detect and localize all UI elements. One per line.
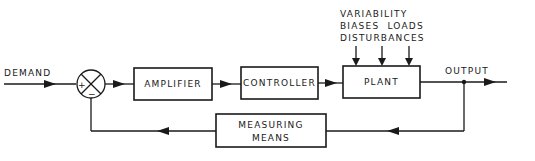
arrow-icon	[325, 79, 337, 87]
label-demand: DEMAND	[4, 68, 51, 78]
measuring-means-block: MEASURING MEANS	[216, 114, 326, 147]
disturbance-arrows	[352, 46, 413, 66]
plant-label: PLANT	[364, 77, 399, 87]
amplifier-block: AMPLIFIER	[134, 68, 212, 100]
summing-junction: + −	[77, 70, 105, 99]
controller-block: CONTROLLER	[241, 67, 318, 99]
measuring-label-line1: MEASURING	[238, 120, 303, 130]
label-variability: VARIABILITY	[340, 9, 408, 19]
minus-sign: −	[88, 89, 96, 99]
label-disturbances: DISTURBANCES	[340, 33, 425, 43]
arrow-icon	[113, 80, 125, 88]
control-block-diagram: VARIABILITY BIASES LOADS DISTURBANCES DE…	[0, 0, 535, 161]
demand-line	[4, 80, 76, 88]
label-output: OUTPUT	[445, 66, 489, 76]
plant-block: PLANT	[343, 66, 420, 98]
measuring-label-line2: MEANS	[252, 133, 290, 143]
plus-sign: +	[78, 80, 86, 90]
controller-label: CONTROLLER	[243, 78, 316, 88]
label-biases-loads: BIASES LOADS	[340, 21, 424, 31]
amplifier-label: AMPLIFIER	[144, 79, 202, 89]
arrow-icon	[220, 80, 232, 88]
